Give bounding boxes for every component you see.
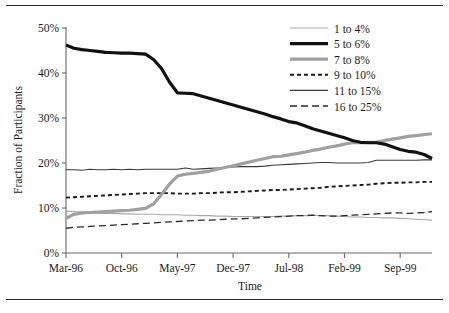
x-axis-title: Time — [238, 280, 262, 292]
line-chart: 0%10%20%30%40%50%Mar-96Oct-96May-97Dec-9… — [0, 0, 449, 313]
series-line-7-to-8- — [66, 134, 432, 219]
y-tick-label: 30% — [38, 112, 60, 124]
x-tick-label: May-97 — [159, 262, 196, 275]
series-group — [66, 45, 432, 228]
x-tick-label: Mar-96 — [49, 262, 84, 274]
x-tick-label: Feb-99 — [328, 262, 361, 274]
legend-label: 9 to 10% — [334, 69, 376, 81]
series-line-9-to-10- — [66, 182, 432, 198]
chart-legend: 1 to 4%5 to 6%7 to 8%9 to 10%11 to 15%16… — [290, 23, 382, 113]
legend-label: 16 to 25% — [334, 101, 382, 113]
axis-lines — [66, 27, 432, 253]
series-line-1-to-4- — [66, 211, 432, 220]
x-tick-label: Oct-96 — [106, 262, 138, 274]
legend-label: 5 to 6% — [334, 38, 370, 50]
y-axis-title: Fraction of Participants — [12, 86, 25, 194]
x-tick-label: Jul-98 — [274, 262, 303, 274]
x-tick-label: Sep-99 — [384, 262, 417, 275]
figure-container: 0%10%20%30%40%50%Mar-96Oct-96May-97Dec-9… — [0, 0, 449, 313]
y-tick-label: 0% — [44, 247, 60, 259]
legend-label: 11 to 15% — [334, 85, 381, 97]
y-tick-label: 20% — [38, 157, 60, 169]
legend-label: 1 to 4% — [334, 23, 370, 35]
y-tick-label: 10% — [38, 202, 60, 214]
y-tick-label: 40% — [38, 67, 60, 79]
x-tick-label: Dec-97 — [216, 262, 250, 274]
y-tick-label: 50% — [38, 22, 60, 34]
legend-label: 7 to 8% — [334, 54, 370, 66]
